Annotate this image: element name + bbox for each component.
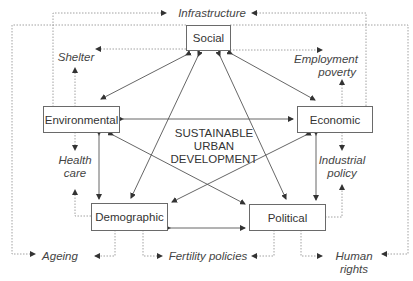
center-title: SUSTAINABLE URBAN DEVELOPMENT [166,127,262,166]
health-line-2: care [55,167,95,180]
employment-poverty-label: Employment poverty [294,53,356,79]
industrial-line-1: Industrial [317,154,367,167]
shelter-label: Shelter [56,51,96,64]
employment-line-1: Employment [294,53,356,66]
infrastructure-label: Infrastructure [176,7,248,20]
human-line-2: rights [334,263,374,276]
social-box: Social [186,25,231,51]
center-line-3: DEVELOPMENT [166,153,262,166]
fertility-policies-label: Fertility policies [166,250,250,263]
industrial-policy-label: Industrial policy [317,154,367,180]
environmental-box: Environmental [43,106,120,133]
human-line-1: Human [334,250,374,263]
economic-label: Economic [310,114,361,126]
demographic-label: Demographic [95,211,163,223]
ageing-label: Ageing [40,250,80,263]
political-label: Political [268,212,308,224]
employment-line-2: poverty [294,66,356,79]
demographic-box: Demographic [91,203,168,231]
environmental-label: Environmental [45,114,119,126]
center-line-2: URBAN [166,140,262,153]
social-label: Social [193,32,224,44]
center-line-1: SUSTAINABLE [166,127,262,140]
economic-box: Economic [297,106,373,133]
industrial-line-2: policy [317,167,367,180]
political-box: Political [249,204,326,231]
health-line-1: Health [55,154,95,167]
human-rights-label: Human rights [334,250,374,276]
health-care-label: Health care [55,154,95,180]
